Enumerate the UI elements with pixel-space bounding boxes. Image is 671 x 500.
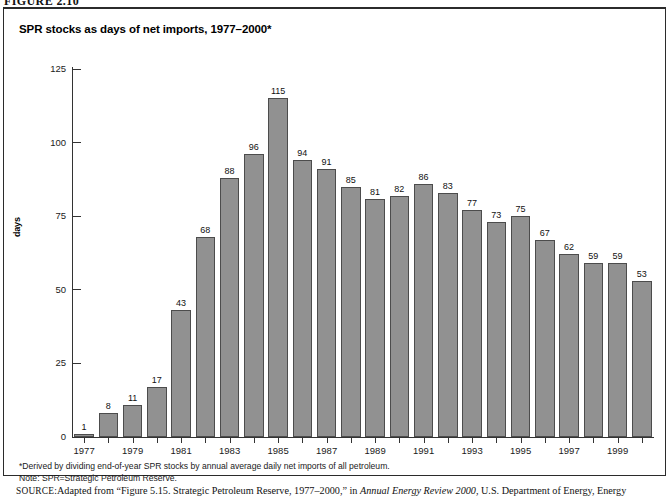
x-axis-tick [351,437,352,443]
bar [220,178,239,437]
x-axis-tick [593,437,594,443]
bar [608,263,627,437]
x-axis-tick [424,437,425,443]
chart-plot-area: days 0255075100125 197719791981198319851… [4,9,667,478]
y-axis-tick [72,216,81,217]
bar-value-label: 82 [383,185,415,194]
bar-value-label: 77 [456,199,488,208]
x-axis-tick [618,437,619,443]
x-axis-tick [157,437,158,443]
bar-value-label: 94 [286,149,318,158]
x-axis-tick-label: 1989 [355,446,395,456]
bar-value-label: 62 [553,243,585,252]
y-axis-tick-label: 100 [18,138,66,148]
x-axis-tick-label: 1987 [307,446,347,456]
bar [390,196,409,437]
footnote-derivation: *Derived by dividing end-of-year SPR sto… [19,461,390,473]
bar-value-label: 43 [165,299,197,308]
x-axis-tick-label: 1991 [404,446,444,456]
x-axis-tick [448,437,449,443]
bar-value-label: 96 [238,143,270,152]
bar-value-label: 17 [141,376,173,385]
bar-value-label: 1 [68,423,100,432]
x-axis-tick [375,437,376,443]
footnote-note: Note: SPR=Strategic Petroleum Reserve. [19,473,390,485]
y-axis-tick [72,289,81,290]
bar-value-label: 75 [505,205,537,214]
bar-value-label: 115 [262,87,294,96]
bar-value-label: 67 [529,229,561,238]
y-axis-tick-label: 25 [18,358,66,368]
x-axis-tick [205,437,206,443]
bar [559,254,578,437]
bar-value-label: 8 [92,402,124,411]
bar [535,240,554,437]
bar-value-label: 59 [602,252,634,261]
x-axis-tick [278,437,279,443]
x-axis-tick [254,437,255,443]
x-axis-tick-label: 1985 [258,446,298,456]
x-axis-tick [181,437,182,443]
bar [462,210,481,437]
bar [438,193,457,437]
bar-value-label: 86 [408,173,440,182]
bar-value-label: 83 [432,182,464,191]
bar-value-label: 53 [626,270,658,279]
bar [487,222,506,437]
x-axis-tick [84,437,85,443]
y-axis-tick [72,69,81,70]
source-line: SOURCE:Adapted from “Figure 5.15. Strate… [16,485,666,497]
bar [365,199,384,437]
y-axis-tick-label: 125 [18,64,66,74]
x-axis-tick [133,437,134,443]
x-axis-line [72,437,654,438]
bar [74,434,93,437]
bar [511,216,530,437]
bar [147,387,166,437]
bar-value-label: 11 [117,394,149,403]
x-axis-tick-label: 1977 [64,446,104,456]
y-axis-line [72,67,73,438]
bar-value-label: 85 [335,176,367,185]
bar [584,263,603,437]
source-publication-title: Annual Energy Review 2000 [360,485,476,496]
bar [632,281,651,437]
bar-value-label: 88 [214,167,246,176]
bar [341,187,360,437]
bar [414,184,433,437]
y-axis-tick [72,363,81,364]
x-axis-tick-label: 1983 [210,446,250,456]
x-axis-tick-label: 1981 [161,446,201,456]
footnotes: *Derived by dividing end-of-year SPR sto… [19,461,390,484]
bar-value-label: 68 [189,226,221,235]
x-axis-tick [472,437,473,443]
x-axis-tick [642,437,643,443]
figure-box: SPR stocks as days of net imports, 1977–… [3,7,666,476]
x-axis-tick-label: 1999 [598,446,638,456]
bar [317,169,336,437]
bar [99,413,118,437]
bar-value-label: 91 [311,158,343,167]
x-axis-tick [569,437,570,443]
x-axis-tick [496,437,497,443]
x-axis-tick [545,437,546,443]
bar [268,98,287,437]
source-text-after: , U.S. Department of Energy, Energy [476,485,626,496]
x-axis-tick-label: 1979 [113,446,153,456]
source-label: SOURCE: [16,486,57,496]
y-axis-tick-label: 0 [18,432,66,442]
y-axis-tick-label: 50 [18,285,66,295]
y-axis-tick [72,142,81,143]
bar [196,237,215,437]
source-text-before: Adapted from “Figure 5.15. Strategic Pet… [57,485,360,496]
x-axis-tick [302,437,303,443]
bar [293,160,312,437]
x-axis-tick [399,437,400,443]
x-axis-tick [108,437,109,443]
x-axis-tick [327,437,328,443]
x-axis-tick-label: 1993 [452,446,492,456]
x-axis-tick-label: 1997 [549,446,589,456]
y-axis-tick-label: 75 [18,211,66,221]
bar [123,405,142,437]
bar [244,154,263,437]
